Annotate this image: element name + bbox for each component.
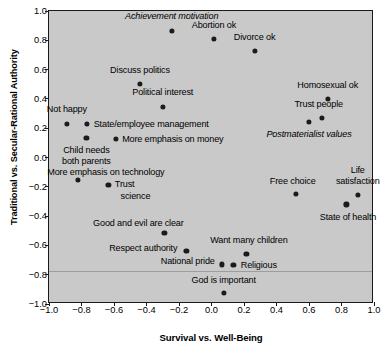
data-point[interactable] xyxy=(211,36,216,41)
y-axis-tick-label: −0.4 xyxy=(13,211,47,221)
y-axis-tick-mark xyxy=(45,98,49,99)
data-point-label: Homosexual ok xyxy=(297,80,358,91)
data-point[interactable] xyxy=(64,121,69,126)
data-point-label: Postmaterialist values xyxy=(266,129,351,140)
data-point[interactable] xyxy=(344,202,349,207)
data-point-label: Political interest xyxy=(132,87,193,98)
data-point-label: God is important xyxy=(192,275,256,286)
y-axis-tick-label: 0.4 xyxy=(13,94,47,104)
data-point-label: Child needs xyxy=(63,145,109,156)
data-point[interactable] xyxy=(84,135,89,140)
x-axis-tick-mark xyxy=(341,302,342,306)
y-axis-tick-mark xyxy=(45,157,49,158)
data-point-label: Abortion ok xyxy=(192,20,236,31)
reference-line xyxy=(49,271,372,272)
x-axis-tick-mark xyxy=(309,302,310,306)
x-axis-tick-mark xyxy=(276,302,277,306)
y-axis-tick-label: −0.8 xyxy=(13,270,47,280)
data-point[interactable] xyxy=(319,115,324,120)
data-point-label: Discuss politics xyxy=(110,65,170,76)
x-axis-tick-mark xyxy=(179,302,180,306)
y-axis-tick-label: 0.2 xyxy=(13,123,47,133)
data-point-label: satisfaction xyxy=(336,176,380,187)
y-axis-tick-mark xyxy=(45,274,49,275)
y-axis-tick-label: 0.6 xyxy=(13,65,47,75)
y-axis-tick-mark xyxy=(45,69,49,70)
data-point-label: science xyxy=(121,191,151,202)
data-point-label: both parents xyxy=(62,156,111,167)
data-point[interactable] xyxy=(252,49,257,54)
data-point[interactable] xyxy=(137,82,142,87)
data-point-label: State of health xyxy=(320,212,376,223)
x-axis-tick-label: 1.0 xyxy=(354,305,382,315)
data-point[interactable] xyxy=(184,249,189,254)
y-axis-tick-mark xyxy=(45,128,49,129)
data-point-label: Want many children xyxy=(210,235,287,246)
data-point[interactable] xyxy=(160,104,165,109)
y-axis-tick-label: 0.0 xyxy=(13,153,47,163)
data-point[interactable] xyxy=(76,178,81,183)
x-axis-tick-mark xyxy=(211,302,212,306)
data-point-label: Free choice xyxy=(270,176,316,187)
y-axis-tick-mark xyxy=(45,11,49,12)
y-axis-tick-mark xyxy=(45,245,49,246)
data-point-label: Trust people xyxy=(295,99,343,110)
data-point-label: State/employee management xyxy=(94,119,209,130)
data-point-label: Trust xyxy=(115,179,135,190)
data-point-label: Religious xyxy=(241,260,277,271)
data-point[interactable] xyxy=(85,122,90,127)
x-axis-tick-mark xyxy=(146,302,147,306)
y-axis-tick-mark xyxy=(45,216,49,217)
x-axis-tick-mark xyxy=(81,302,82,306)
y-axis-tick-label: 0.8 xyxy=(13,35,47,45)
data-point-label: Life xyxy=(351,165,365,176)
y-axis-tick-mark xyxy=(45,186,49,187)
y-axis-tick-label: 1.0 xyxy=(13,6,47,16)
data-point-label: More emphasis on money xyxy=(122,134,223,145)
data-point-label: Divorce ok xyxy=(234,32,275,43)
data-point-label: Respect authority xyxy=(109,243,177,254)
data-point[interactable] xyxy=(244,252,249,257)
x-axis-tick-mark xyxy=(374,302,375,306)
data-point[interactable] xyxy=(219,262,224,267)
data-point-label: Not happy xyxy=(47,104,87,115)
data-point[interactable] xyxy=(306,119,311,124)
x-axis-tick-mark xyxy=(244,302,245,306)
plot-area: 1.00.80.60.40.20.0−0.2−0.4−0.6−0.8−1.0−1… xyxy=(48,10,373,303)
data-point[interactable] xyxy=(169,28,174,33)
data-point[interactable] xyxy=(355,192,360,197)
y-axis-tick-mark xyxy=(45,40,49,41)
data-point-label: Good and evil are clear xyxy=(93,218,184,229)
data-point-label: More emphasis on technology xyxy=(47,167,164,178)
scatter-plot-figure: Traditional vs. Secular-Rational Authori… xyxy=(0,0,382,351)
data-point[interactable] xyxy=(221,290,226,295)
data-point[interactable] xyxy=(293,192,298,197)
x-axis-title: Survival vs. Well-Being xyxy=(48,332,374,343)
data-point[interactable] xyxy=(106,182,111,187)
data-point[interactable] xyxy=(162,230,167,235)
y-axis-tick-label: −0.2 xyxy=(13,182,47,192)
data-point[interactable] xyxy=(113,137,118,142)
data-point-label: National pride xyxy=(161,256,215,267)
x-axis-tick-mark xyxy=(49,302,50,306)
y-axis-tick-label: −0.6 xyxy=(13,240,47,250)
data-point[interactable] xyxy=(231,263,236,268)
x-axis-tick-mark xyxy=(114,302,115,306)
